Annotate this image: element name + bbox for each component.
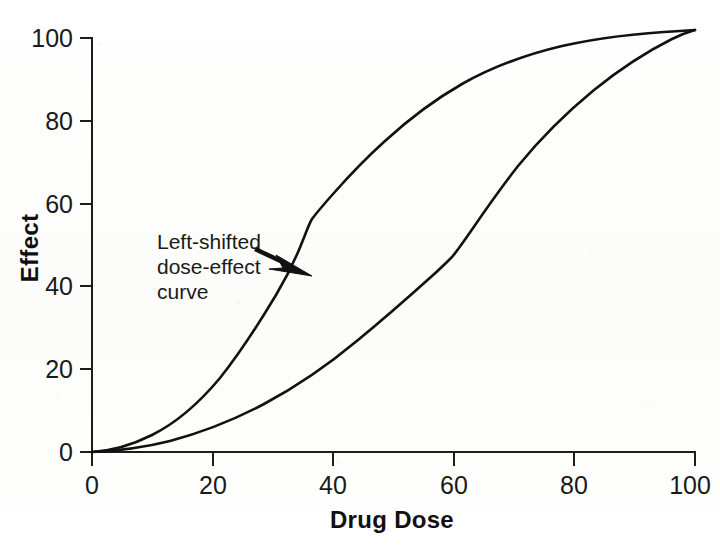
y-tick-label-100: 100 [31,24,73,52]
x-axis-title: Drug Dose [330,506,454,533]
y-tick-label-40: 40 [45,272,73,300]
x-tick-marks [92,452,695,466]
x-tick-label-20: 20 [199,471,227,499]
y-axis-title: Effect [16,214,43,282]
annotation-group: Left-shifted dose-effect curve [157,230,312,303]
y-tick-marks [80,38,92,452]
x-tick-label-80: 80 [560,471,588,499]
x-tick-label-60: 60 [440,471,468,499]
chart-figure: 100 80 60 40 20 0 0 20 40 60 80 100 Drug… [0,0,720,549]
y-tick-label-20: 20 [45,355,73,383]
y-tick-label-0: 0 [59,438,73,466]
annotation-line-1: Left-shifted [157,230,261,253]
x-tick-label-100: 100 [669,471,711,499]
annotation-line-3: curve [157,280,208,303]
x-tick-label-40: 40 [319,471,347,499]
y-tick-label-80: 80 [45,107,73,135]
y-tick-label-60: 60 [45,190,73,218]
x-tick-label-0: 0 [85,471,99,499]
x-tick-labels: 0 20 40 60 80 100 [85,471,711,499]
annotation-line-2: dose-effect [157,255,261,278]
dose-effect-chart: 100 80 60 40 20 0 0 20 40 60 80 100 Drug… [0,0,720,549]
annotation-arrow-icon [255,249,312,276]
